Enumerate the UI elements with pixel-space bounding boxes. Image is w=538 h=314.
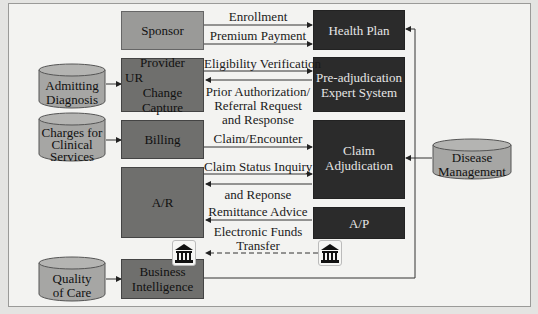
flow-eligibility: Eligibility Verification xyxy=(204,56,312,71)
flow-claim-encounter: Claim/Encounter xyxy=(204,131,312,146)
flow-eft-1: Electronic Funds xyxy=(204,224,312,239)
db-disease-management: Disease Management xyxy=(432,138,512,180)
bank-icon xyxy=(172,240,196,266)
sponsor-label: Sponsor xyxy=(141,23,184,38)
billing-box: Billing xyxy=(121,120,204,159)
db-charges-clinical: Charges for Clinical Services xyxy=(38,112,106,162)
flow-and-response: and Reponse xyxy=(204,187,312,202)
provider-box: Provider UR Change Capture xyxy=(121,58,204,112)
bi-label-2: Intelligence xyxy=(132,279,193,294)
flow-prior-auth-2: Referral Request xyxy=(204,98,312,113)
pre-adj-label-2: Expert System xyxy=(321,85,397,100)
bank-icon xyxy=(318,240,342,266)
billing-label: Billing xyxy=(144,132,180,147)
db-label-2: Diagnosis xyxy=(38,92,106,107)
flow-prior-auth-3: and Response xyxy=(204,112,312,127)
ar-label: A/R xyxy=(152,195,174,210)
provider-change-capture: Change Capture xyxy=(122,85,203,115)
flow-enrollment: Enrollment xyxy=(204,9,312,24)
health-plan-label: Health Plan xyxy=(328,23,389,38)
db-quality-of-care: Quality of Care xyxy=(38,256,106,302)
sponsor-box: Sponsor xyxy=(121,11,204,50)
claim-adj-label-1: Claim xyxy=(343,143,375,158)
ap-label: A/P xyxy=(349,216,369,231)
flow-eft-2: Transfer xyxy=(204,238,312,253)
pre-adjudication-box: Pre-adjudication Expert System xyxy=(313,57,405,112)
ar-box: A/R xyxy=(121,167,204,238)
claim-adjudication-box: Claim Adjudication xyxy=(313,120,405,199)
claim-adj-label-2: Adjudication xyxy=(325,158,393,173)
flow-prior-auth-1: Prior Authorization/ xyxy=(204,84,312,99)
db-label-2: Management xyxy=(432,164,512,179)
flow-claim-status: Claim Status Inquiry xyxy=(204,159,312,174)
db-label-2: of Care xyxy=(38,285,106,300)
flow-remittance: Remittance Advice xyxy=(204,204,312,219)
db-label-1: Disease xyxy=(432,150,512,165)
db-label-3: Services xyxy=(38,149,106,164)
pre-adj-label-1: Pre-adjudication xyxy=(316,70,402,85)
health-plan-box: Health Plan xyxy=(313,10,405,50)
db-admitting-diagnosis: Admitting Diagnosis xyxy=(38,63,106,109)
db-label-1: Quality xyxy=(38,271,106,286)
flow-premium-payment: Premium Payment xyxy=(204,28,312,43)
provider-ur: UR xyxy=(122,70,143,85)
db-label-1: Admitting xyxy=(38,78,106,93)
ap-box: A/P xyxy=(313,207,405,239)
provider-label: Provider xyxy=(140,55,185,70)
